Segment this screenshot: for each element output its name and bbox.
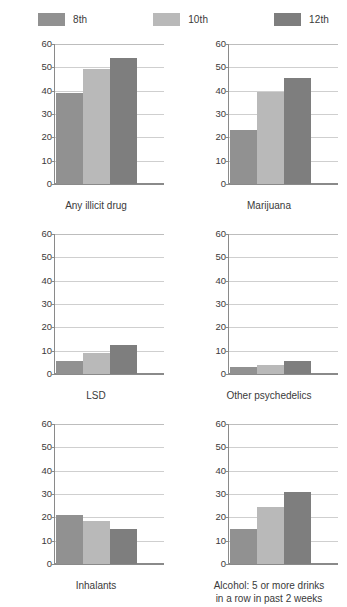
y-axis-tick	[225, 517, 229, 518]
y-axis-tick	[225, 447, 229, 448]
y-axis-tick	[51, 494, 55, 495]
y-axis-tick-label: 50	[204, 443, 226, 453]
y-axis-labels: 6050403020100	[204, 234, 226, 374]
panel-label-line1: Alcohol: 5 or more drinks	[196, 580, 342, 593]
y-axis-tick	[225, 281, 229, 282]
bar-10th	[83, 521, 110, 564]
y-axis-tick-label: 40	[30, 466, 52, 476]
y-axis-tick	[225, 67, 229, 68]
y-axis-tick	[51, 281, 55, 282]
legend-item-10th: 10th	[153, 13, 208, 26]
y-axis-tick-label: 40	[30, 276, 52, 286]
bar-group	[230, 424, 312, 564]
y-axis-tick-label: 0	[30, 369, 52, 379]
bar-8th	[230, 367, 257, 374]
y-axis-tick-label: 60	[30, 229, 52, 239]
y-axis-tick	[225, 114, 229, 115]
y-axis-labels: 6050403020100	[204, 424, 226, 564]
y-axis-tick-label: 10	[204, 346, 226, 356]
chart-panel: 6050403020100Any illicit drug	[0, 38, 172, 228]
chart-legend: 8th 10th 12th	[0, 0, 347, 38]
bar-group	[56, 44, 138, 184]
y-axis-tick-label: 20	[204, 133, 226, 143]
y-axis-tick	[225, 304, 229, 305]
panel-label: Other psychedelics	[196, 390, 342, 403]
y-axis-tick-label: 30	[204, 109, 226, 119]
y-axis-tick	[225, 541, 229, 542]
y-axis-tick	[51, 304, 55, 305]
legend-swatch-10th	[153, 13, 180, 26]
plot-box	[228, 44, 334, 184]
y-axis-tick	[225, 257, 229, 258]
bar-12th	[110, 345, 137, 374]
y-axis-tick	[225, 494, 229, 495]
y-axis-tick	[51, 541, 55, 542]
legend-label-10th: 10th	[188, 14, 208, 25]
y-axis-tick	[51, 351, 55, 352]
y-axis-tick-label: 40	[30, 86, 52, 96]
legend-swatch-12th	[274, 13, 301, 26]
plot-area: 6050403020100	[204, 424, 334, 577]
panel-label-line1: Marijuana	[196, 200, 342, 213]
y-axis-tick	[225, 91, 229, 92]
panel-label-line1: LSD	[30, 390, 162, 403]
y-axis-tick	[225, 44, 229, 45]
bar-group	[230, 234, 312, 374]
y-axis-tick-label: 30	[204, 299, 226, 309]
y-axis-tick-label: 0	[204, 559, 226, 569]
y-axis-tick-label: 0	[204, 369, 226, 379]
bar-10th	[83, 69, 110, 185]
bar-12th	[284, 78, 311, 184]
y-axis-tick	[225, 351, 229, 352]
legend-item-8th: 8th	[38, 13, 87, 26]
y-axis-tick	[225, 327, 229, 328]
legend-label-8th: 8th	[73, 14, 87, 25]
y-axis-tick-label: 10	[204, 156, 226, 166]
y-axis-tick-label: 30	[30, 489, 52, 499]
plot-area: 6050403020100	[30, 234, 160, 387]
y-axis-tick-label: 60	[204, 419, 226, 429]
bar-group	[56, 424, 138, 564]
y-axis-labels: 6050403020100	[30, 44, 52, 184]
plot-box	[54, 44, 160, 184]
y-axis-tick	[225, 137, 229, 138]
y-axis-tick-label: 30	[204, 489, 226, 499]
panel-label-line1: Other psychedelics	[196, 390, 342, 403]
y-axis-tick-label: 50	[204, 253, 226, 263]
y-axis-tick-label: 20	[30, 323, 52, 333]
y-axis-tick-label: 60	[30, 419, 52, 429]
y-axis-tick-label: 0	[204, 179, 226, 189]
y-axis-tick-label: 60	[204, 229, 226, 239]
y-axis-tick	[51, 137, 55, 138]
chart-grid: 6050403020100Any illicit drug60504030201…	[0, 38, 347, 607]
plot-area: 6050403020100	[204, 44, 334, 197]
panel-label-line1: Inhalants	[30, 580, 162, 593]
panel-label: Marijuana	[196, 200, 342, 213]
plot-box	[54, 424, 160, 564]
y-axis-tick	[51, 517, 55, 518]
chart-panel: 6050403020100Inhalants	[0, 418, 172, 607]
y-axis-tick-label: 20	[204, 513, 226, 523]
y-axis-tick	[51, 91, 55, 92]
y-axis-tick-label: 10	[204, 536, 226, 546]
bar-12th	[284, 492, 311, 564]
y-axis-tick	[51, 161, 55, 162]
legend-label-12th: 12th	[309, 14, 329, 25]
y-axis-tick-label: 60	[204, 39, 226, 49]
y-axis-tick-label: 0	[30, 179, 52, 189]
y-axis-tick-label: 40	[204, 86, 226, 96]
y-axis-tick	[51, 424, 55, 425]
y-axis-tick	[51, 447, 55, 448]
bar-group	[230, 44, 312, 184]
panel-label: Alcohol: 5 or more drinksin a row in pas…	[196, 580, 342, 605]
y-axis-tick	[51, 44, 55, 45]
y-axis-tick-label: 30	[30, 299, 52, 309]
chart-panel: 6050403020100Marijuana	[172, 38, 347, 228]
y-axis-tick	[51, 234, 55, 235]
y-axis-labels: 6050403020100	[204, 44, 226, 184]
plot-box	[54, 234, 160, 374]
bar-10th	[257, 92, 284, 184]
chart-panel: 6050403020100Other psychedelics	[172, 228, 347, 418]
plot-box	[228, 234, 334, 374]
legend-item-12th: 12th	[274, 13, 329, 26]
